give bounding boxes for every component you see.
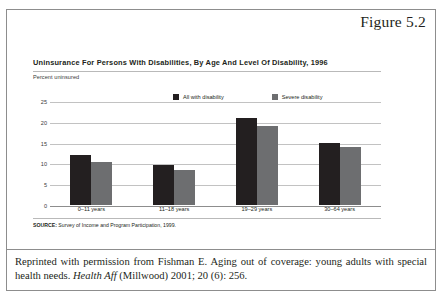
x-axis-tick-labels: 0–11 years 11–18 years 19–29 years 30–64…	[50, 206, 381, 212]
source-divider	[33, 218, 381, 219]
figure-number-label: Figure 5.2	[360, 13, 426, 31]
caption-box: Reprinted with permission from Fishman E…	[6, 250, 436, 291]
legend-label-severe-disability: Severe disability	[282, 94, 323, 100]
bar-all-with-disability-3	[319, 143, 340, 205]
bar-group-30-64-years	[298, 102, 381, 206]
chart-source-note: SOURCE: Survey of Income and Program Par…	[33, 222, 176, 228]
figure-box: Figure 5.2 Uninsurance For Persons With …	[6, 9, 436, 250]
y-tick-25: 25	[41, 99, 47, 105]
legend-swatch-icon-all-with-disability	[173, 94, 179, 100]
legend-swatch-icon-severe-disability	[272, 94, 278, 100]
bar-group-0-11-years	[50, 102, 133, 206]
bar-severe-disability-0	[91, 162, 112, 205]
bar-severe-disability-2	[257, 126, 278, 205]
chart-legend: All with disability Severe disability	[173, 94, 322, 100]
bar-group-11-18-years	[133, 102, 216, 206]
x-tick-19-29-years: 19–29 years	[216, 206, 299, 212]
bar-groups	[50, 102, 381, 206]
y-axis-tick-labels: 25 20 15 10 5 0	[33, 102, 49, 206]
bar-pair	[50, 101, 133, 205]
bar-all-with-disability-2	[236, 118, 257, 205]
bar-pair	[298, 101, 381, 205]
figure-caption: Reprinted with permission from Fishman E…	[15, 255, 427, 282]
legend-item-all-with-disability: All with disability	[173, 94, 224, 100]
bar-group-19-29-years	[216, 102, 299, 206]
y-tick-5: 5	[44, 182, 47, 188]
legend-item-severe-disability: Severe disability	[272, 94, 323, 100]
bar-all-with-disability-0	[70, 155, 91, 205]
bar-severe-disability-3	[340, 147, 361, 205]
bar-all-with-disability-1	[153, 165, 174, 205]
source-text: Survey of Income and Program Participati…	[57, 222, 176, 228]
y-axis-caption: Percent uninsured	[33, 74, 381, 80]
title-divider	[33, 71, 381, 72]
x-tick-0-11-years: 0–11 years	[50, 206, 133, 212]
chart-panel: Uninsurance For Persons With Disabilitie…	[33, 58, 381, 238]
caption-part-2: (Millwood) 2001; 20 (6): 256.	[117, 270, 248, 281]
plot-area-wrapper: 25 20 15 10 5 0	[33, 102, 381, 206]
bar-severe-disability-1	[174, 170, 195, 205]
chart-title: Uninsurance For Persons With Disabilitie…	[33, 58, 381, 67]
y-tick-15: 15	[41, 141, 47, 147]
y-tick-20: 20	[41, 120, 47, 126]
x-tick-11-18-years: 11–18 years	[133, 206, 216, 212]
y-tick-0: 0	[44, 203, 47, 209]
plot-area	[50, 102, 381, 206]
bar-pair	[216, 101, 299, 205]
bar-pair	[133, 101, 216, 205]
figure-page: Figure 5.2 Uninsurance For Persons With …	[0, 0, 443, 297]
y-tick-10: 10	[41, 161, 47, 167]
x-tick-30-64-years: 30–64 years	[298, 206, 381, 212]
source-label: SOURCE:	[33, 222, 57, 228]
legend-label-all-with-disability: All with disability	[183, 94, 224, 100]
caption-journal-title: Health Aff	[73, 270, 117, 281]
